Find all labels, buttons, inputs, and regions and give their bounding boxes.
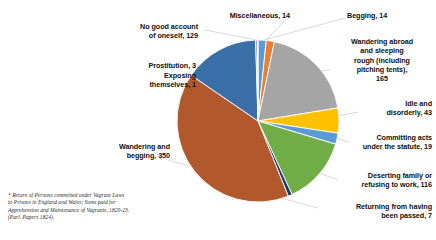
label-no-good-account: No good account of oneself, 129 <box>78 22 198 41</box>
pie-slice <box>257 40 258 121</box>
label-idle-and-disorderly: Idle and disorderly, 43 <box>336 99 432 118</box>
label-wandering-and-begging: Wandering and begging, 350 <box>58 142 170 161</box>
pie-slices <box>177 40 339 202</box>
label-exposing-themselves: Exposing themselves, 1 <box>86 71 196 90</box>
leader-no-good-account <box>205 30 262 41</box>
label-begging: Begging, 14 <box>347 11 433 20</box>
label-committing-acts: Committing acts under the statute, 19 <box>322 133 432 152</box>
pie-chart-figure: No good account of oneself, 129 Prostitu… <box>0 0 436 240</box>
label-miscellaneous: Miscellaneous, 14 <box>214 11 290 20</box>
label-wandering-abroad: Wandering abroad and sleeping rough (inc… <box>332 37 432 83</box>
source-footnote: * Return of Persons committed under Vagr… <box>8 192 176 222</box>
label-deserting-family: Deserting family or refusing to work, 11… <box>316 171 432 190</box>
label-returning-passed: Returning from having been passed, 7 <box>308 202 432 221</box>
label-prostitution: Prostitution, 3 <box>76 61 196 70</box>
